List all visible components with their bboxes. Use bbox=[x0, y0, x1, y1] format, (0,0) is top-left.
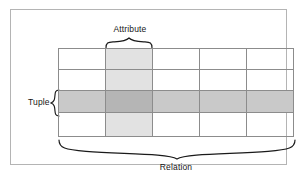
attribute-label: Attribute bbox=[106, 24, 154, 34]
tuple-label: Tuple bbox=[28, 97, 50, 107]
table-cell bbox=[247, 48, 294, 70]
table-cell bbox=[247, 70, 294, 91]
table-cell bbox=[58, 70, 106, 91]
table-cell bbox=[200, 113, 247, 137]
table-cell bbox=[153, 91, 200, 113]
table-cell bbox=[200, 91, 247, 113]
table-cell bbox=[58, 48, 106, 70]
table-cell bbox=[153, 113, 200, 137]
relation-table bbox=[58, 48, 294, 137]
relation-label: Relation bbox=[58, 162, 294, 172]
diagram-canvas: Attribute Tuple Relation bbox=[0, 0, 298, 174]
table-cell bbox=[247, 113, 294, 137]
table-cell bbox=[200, 70, 247, 91]
table-cell bbox=[58, 113, 106, 137]
diagram-frame: Attribute Tuple Relation bbox=[10, 9, 287, 165]
table-cell bbox=[58, 91, 106, 113]
table-cell bbox=[106, 48, 153, 70]
table-cell bbox=[106, 113, 153, 137]
table-cell bbox=[153, 48, 200, 70]
table-cell bbox=[106, 70, 153, 91]
table-cell bbox=[153, 70, 200, 91]
table-cell bbox=[200, 48, 247, 70]
table-cell bbox=[247, 91, 294, 113]
table-cell bbox=[106, 91, 153, 113]
